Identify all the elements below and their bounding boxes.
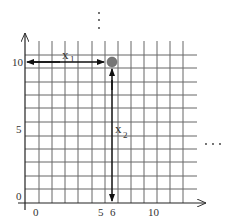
horizontal-ellipsis-icon bbox=[205, 143, 221, 145]
x1-label: x bbox=[62, 47, 69, 62]
point-marker bbox=[107, 57, 117, 67]
coordinate-grid-diagram: x 1 x 2 10 5 0 0 5 6 10 bbox=[0, 0, 234, 222]
x-tick-6: 6 bbox=[110, 206, 116, 218]
x-tick-10: 10 bbox=[148, 206, 160, 218]
vertical-ellipsis-icon bbox=[98, 12, 100, 29]
x1-subscript: 1 bbox=[70, 54, 75, 64]
x2-subscript: 2 bbox=[123, 130, 128, 140]
x-tick-0: 0 bbox=[33, 206, 39, 218]
y-tick-0: 0 bbox=[16, 190, 22, 202]
y-tick-10: 10 bbox=[12, 56, 24, 68]
x-tick-5: 5 bbox=[98, 206, 104, 218]
x2-label: x bbox=[115, 121, 122, 136]
grid-horizontal-lines bbox=[25, 55, 197, 189]
y-tick-5: 5 bbox=[16, 123, 22, 135]
